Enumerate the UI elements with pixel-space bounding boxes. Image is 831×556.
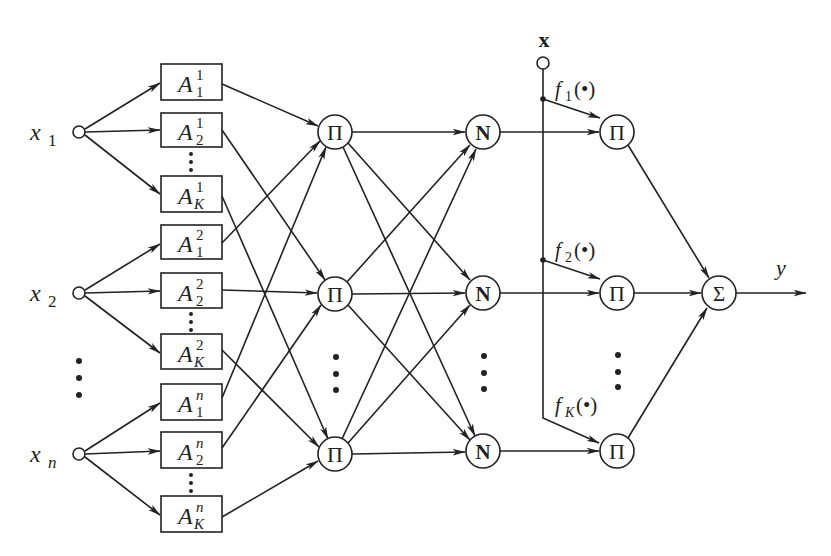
- mf-ellipsis: [189, 473, 193, 493]
- output-label: y: [774, 255, 786, 280]
- svg-text:N: N: [475, 121, 490, 145]
- svg-text:f: f: [555, 238, 564, 262]
- norm-node: N: [466, 276, 500, 310]
- fk-label: f K (•): [555, 393, 597, 420]
- input-subscript: n: [48, 453, 57, 472]
- svg-text:Σ: Σ: [713, 282, 725, 306]
- svg-text:2: 2: [196, 276, 204, 292]
- input-label: x: [29, 280, 41, 306]
- input-node: [73, 448, 85, 460]
- svg-text:A: A: [176, 439, 193, 465]
- svg-text:A: A: [176, 341, 193, 367]
- rule-node: Π: [318, 115, 352, 149]
- mf-ellipsis: [189, 312, 193, 332]
- rule-to-norm-edges: [342, 132, 476, 454]
- neuro-fuzzy-diagram: x 1 x 2 x n: [0, 0, 831, 556]
- rule-layer: Π Π Π: [318, 115, 352, 471]
- svg-text:1: 1: [196, 67, 204, 83]
- mf-box: A n K: [161, 496, 222, 532]
- svg-text:2: 2: [196, 227, 204, 243]
- mf-box: A 1 K: [161, 176, 222, 212]
- svg-text:K: K: [193, 196, 205, 212]
- svg-text:Π: Π: [327, 282, 343, 307]
- input-layer: x 1 x 2 x n: [29, 119, 85, 472]
- rule-node: Π: [318, 437, 352, 471]
- svg-text:K: K: [193, 354, 205, 370]
- svg-text:Π: Π: [327, 120, 343, 145]
- mf-box: A 2 K: [161, 334, 222, 370]
- consequent-layer: Π Π Π: [600, 115, 634, 468]
- svg-text:(•): (•): [574, 77, 595, 101]
- svg-text:1: 1: [196, 244, 204, 260]
- consequent-to-sum-edges: [628, 145, 709, 438]
- input-subscript: 2: [48, 292, 57, 311]
- svg-text:1: 1: [196, 179, 204, 195]
- svg-text:2: 2: [196, 293, 204, 309]
- svg-text:(•): (•): [574, 238, 595, 262]
- mf-ellipsis: [189, 152, 193, 172]
- vector-input-label: x: [539, 27, 550, 52]
- svg-text:1: 1: [196, 115, 204, 131]
- svg-text:K: K: [564, 405, 575, 420]
- svg-text:A: A: [176, 183, 193, 209]
- svg-text:A: A: [176, 503, 193, 529]
- svg-text:n: n: [196, 499, 204, 515]
- sum-node: Σ: [702, 276, 736, 310]
- svg-text:1: 1: [196, 84, 204, 100]
- svg-text:f: f: [555, 393, 564, 417]
- consequent-ellipsis: [615, 352, 621, 390]
- mf-box: A n 1: [161, 384, 222, 420]
- svg-text:Π: Π: [327, 442, 343, 467]
- norm-node: N: [466, 115, 500, 149]
- svg-text:A: A: [176, 391, 193, 417]
- svg-text:n: n: [196, 387, 204, 403]
- input-subscript: 1: [48, 131, 57, 150]
- svg-text:A: A: [176, 119, 193, 145]
- rule-node: Π: [318, 277, 352, 311]
- norm-ellipsis: [481, 353, 487, 392]
- svg-text:Π: Π: [609, 439, 625, 464]
- input-node: [73, 287, 85, 299]
- consequent-function-labels: f 1 (•) f 2 (•) f K (•): [555, 77, 597, 420]
- svg-text:K: K: [193, 516, 205, 532]
- input-to-mf-edges: [85, 83, 160, 515]
- svg-text:2: 2: [196, 452, 204, 468]
- input-node: [73, 126, 85, 138]
- f1-label: f 1 (•): [555, 77, 595, 104]
- mf-box: A 1 2: [161, 113, 222, 148]
- consequent-node: Π: [600, 276, 634, 310]
- svg-text:A: A: [176, 231, 193, 257]
- input-x1: x 1: [29, 119, 85, 150]
- mf-box: A 2 2: [161, 273, 222, 309]
- input-ellipsis: [76, 358, 82, 398]
- input-label: x: [29, 119, 41, 145]
- svg-text:A: A: [176, 71, 193, 97]
- svg-text:1: 1: [196, 404, 204, 420]
- svg-text:N: N: [475, 440, 490, 464]
- mf-box: A n 2: [161, 432, 222, 468]
- vector-input-node: [537, 57, 549, 69]
- svg-text:A: A: [176, 280, 193, 306]
- f2-label: f 2 (•): [555, 238, 595, 265]
- consequent-node: Π: [600, 115, 634, 149]
- membership-layer: A 1 1 A 1 2 A 1 K A 2 1: [161, 64, 222, 532]
- svg-text:1: 1: [565, 89, 572, 104]
- svg-text:2: 2: [565, 250, 572, 265]
- mf-box: A 2 1: [161, 225, 222, 260]
- svg-text:Π: Π: [609, 120, 625, 145]
- mf-box: A 1 1: [161, 64, 222, 100]
- mf-to-rule-edges: [222, 84, 328, 517]
- svg-text:2: 2: [196, 132, 204, 148]
- svg-text:Π: Π: [609, 281, 625, 306]
- svg-text:N: N: [475, 282, 490, 306]
- svg-text:(•): (•): [576, 393, 597, 417]
- input-xn: x n: [29, 441, 85, 472]
- input-x2: x 2: [29, 280, 85, 311]
- consequent-node: Π: [600, 434, 634, 468]
- rule-ellipsis: [333, 354, 339, 393]
- norm-node: N: [466, 434, 500, 468]
- normalization-layer: N N N: [466, 115, 500, 468]
- svg-text:n: n: [196, 435, 204, 451]
- input-label: x: [29, 441, 41, 467]
- svg-text:2: 2: [196, 337, 204, 353]
